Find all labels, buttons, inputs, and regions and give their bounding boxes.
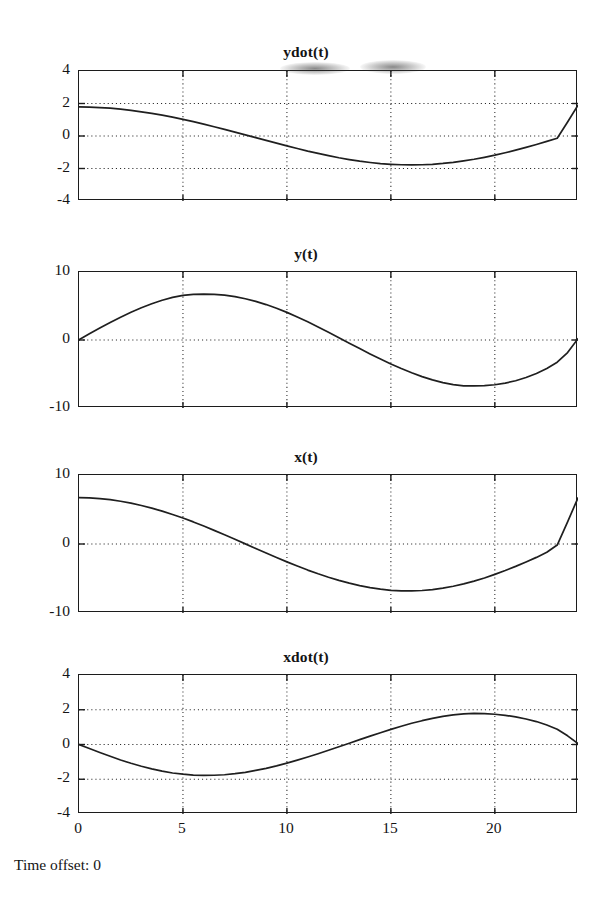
x-axis-tick-label: 15: [365, 819, 415, 837]
time-offset-label: Time offset: 0: [14, 856, 101, 874]
plot-area: [78, 674, 577, 813]
x-axis-tick-label: 20: [469, 819, 519, 837]
y-axis-tick-label: 0: [16, 734, 70, 752]
x-axis-tick-label: 5: [157, 819, 207, 837]
y-axis-tick-label: 2: [16, 699, 70, 717]
subplot-title: xdot(t): [0, 648, 612, 666]
plot-canvas: [79, 675, 578, 814]
subplot-xdott: xdot(t)420-2-405101520: [0, 0, 612, 907]
x-axis-tick-label: 10: [261, 819, 311, 837]
x-axis-tick-label: 0: [53, 819, 103, 837]
matlab-figure-window: ydot(t)420-2-4y(t)100-10x(t)100-10xdot(t…: [0, 0, 612, 907]
y-axis-tick-label: -2: [16, 768, 70, 786]
y-axis-tick-label: 4: [16, 664, 70, 682]
